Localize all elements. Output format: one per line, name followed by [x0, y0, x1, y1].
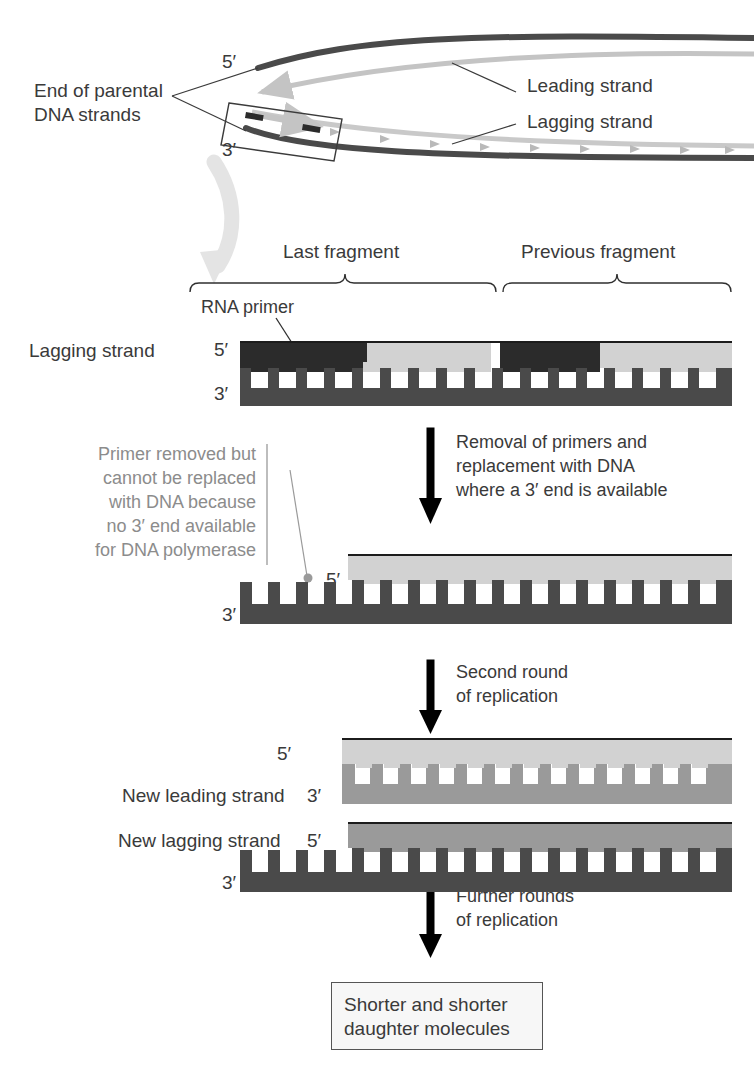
- stage2-duplex: [240, 554, 732, 624]
- diagram-canvas: End of parental DNA strands Leading stra…: [0, 0, 754, 1076]
- stage1-duplex: [240, 341, 732, 406]
- stage3-leading-duplex: [342, 738, 732, 804]
- stage3-lagging-duplex: [240, 822, 732, 892]
- dna-ladders: [0, 0, 754, 1076]
